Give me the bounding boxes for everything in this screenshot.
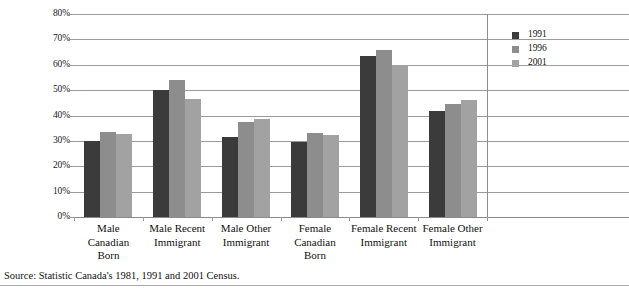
y-tick-mark (67, 166, 73, 167)
source-note: Source: Statistic Canada's 1981, 1991 an… (4, 271, 240, 282)
bar-group (212, 14, 281, 217)
x-category-label-line: Male Other (212, 222, 281, 236)
x-tick-mark (281, 217, 282, 221)
x-category-label: FemaleCanadianBorn (281, 222, 350, 263)
bar-2001 (254, 119, 270, 217)
x-category-label-line: Born (74, 249, 143, 263)
bar-1996 (307, 133, 323, 217)
y-tick-mark (67, 141, 73, 142)
bar-1991 (84, 141, 100, 217)
axis-baseline (73, 217, 629, 218)
y-axis: 80%70%60%50%40%30%20%10%0% (26, 14, 70, 217)
x-category-label-line: Immigrant (349, 236, 418, 250)
bar-2001 (185, 99, 201, 217)
x-category-label-line: Immigrant (212, 236, 281, 250)
bar-group (143, 14, 212, 217)
legend-label: 2001 (528, 58, 547, 68)
x-tick-mark (74, 217, 75, 221)
x-category-label-line: Canadian (281, 236, 350, 250)
y-tick-mark (67, 217, 73, 218)
bar-1991 (360, 56, 376, 217)
x-category-label-line: Female (281, 222, 350, 236)
bar-1996 (238, 122, 254, 217)
x-tick-mark (349, 217, 350, 221)
y-tick-mark (67, 90, 73, 91)
x-category-label-line: Male Recent (143, 222, 212, 236)
bar-2001 (323, 135, 339, 217)
bar-2001 (392, 65, 408, 217)
x-tick-mark (418, 217, 419, 221)
x-category-label: Female OtherImmigrant (418, 222, 487, 249)
chart-legend: 199119962001 (512, 29, 592, 71)
legend-item: 1996 (512, 43, 592, 55)
bar-1996 (100, 132, 116, 218)
x-category-label: Female RecentImmigrant (349, 222, 418, 249)
y-tick-mark (67, 39, 73, 40)
x-category-label: MaleCanadianBorn (74, 222, 143, 263)
x-tick-mark (212, 217, 213, 221)
bar-group (349, 14, 418, 217)
bar-1991 (291, 142, 307, 217)
bar-2001 (461, 100, 477, 217)
bar-group (74, 14, 143, 217)
x-category-label-line: Male (74, 222, 143, 236)
legend-item: 2001 (512, 57, 592, 69)
x-axis-labels: MaleCanadianBornMale RecentImmigrantMale… (74, 222, 487, 266)
legend-item: 1991 (512, 29, 592, 41)
footer-divider (0, 285, 629, 286)
legend-swatch-icon (512, 60, 519, 67)
bar-1996 (376, 50, 392, 217)
bar-group (418, 14, 487, 217)
bar-1991 (429, 111, 445, 217)
bar-group (281, 14, 350, 217)
y-tick-mark (67, 14, 73, 15)
x-category-label-line: Female Recent (349, 222, 418, 236)
bar-1996 (445, 104, 461, 217)
y-tick-mark (67, 116, 73, 117)
bar-1996 (169, 80, 185, 217)
bar-1991 (222, 137, 238, 217)
bar-1991 (153, 90, 169, 217)
x-category-label: Male RecentImmigrant (143, 222, 212, 249)
x-tick-mark (487, 217, 488, 221)
bar-chart: 80%70%60%50%40%30%20%10%0% MaleCanadianB… (0, 0, 629, 291)
x-tick-mark (143, 217, 144, 221)
legend-swatch-icon (512, 32, 519, 39)
legend-swatch-icon (512, 46, 519, 53)
y-tick-mark (67, 192, 73, 193)
plot-area (74, 14, 487, 217)
plot-right-border (487, 14, 488, 218)
x-category-label-line: Canadian (74, 236, 143, 250)
x-category-label-line: Immigrant (418, 236, 487, 250)
legend-label: 1996 (528, 44, 547, 54)
x-category-label-line: Female Other (418, 222, 487, 236)
x-category-label-line: Immigrant (143, 236, 212, 250)
x-category-label-line: Born (281, 249, 350, 263)
y-tick-mark (67, 65, 73, 66)
x-category-label: Male OtherImmigrant (212, 222, 281, 249)
bar-2001 (116, 134, 132, 217)
legend-label: 1991 (528, 30, 547, 40)
